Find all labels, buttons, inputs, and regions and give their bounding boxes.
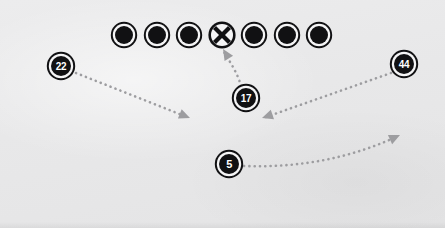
route-player-5-arrowhead [388, 130, 402, 144]
route-player-17-arrowhead [219, 46, 233, 61]
lineman-marker [115, 26, 133, 44]
x-glyph-icon [211, 24, 233, 46]
play-diagram: 2217445 [0, 0, 445, 228]
route-player-22-arrowhead [178, 109, 192, 122]
player-17-number: 17 [241, 93, 251, 104]
lineman-marker [180, 26, 198, 44]
route-player-44 [266, 73, 391, 117]
player-5-number: 5 [226, 158, 232, 170]
route-player-22 [76, 73, 187, 117]
lineman-marker [310, 26, 328, 44]
lineman-marker [278, 26, 296, 44]
player-44: 44 [394, 54, 414, 74]
center-x-marker-icon [211, 24, 233, 46]
route-player-44-arrowhead [260, 110, 274, 123]
lineman-marker [148, 26, 166, 44]
player-22: 22 [51, 56, 71, 76]
player-44-number: 44 [399, 59, 409, 70]
player-22-number: 22 [56, 61, 66, 72]
player-17: 17 [236, 88, 256, 108]
route-player-5 [244, 137, 396, 166]
lineman-marker [245, 26, 263, 44]
player-5: 5 [219, 154, 239, 174]
